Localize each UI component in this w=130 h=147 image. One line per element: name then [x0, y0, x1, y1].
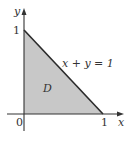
line-equation-label: x + y = 1 [62, 57, 114, 70]
x-axis-label: x [118, 116, 125, 129]
region-diagram: y 1 0 1 x x + y = 1 D [0, 0, 130, 147]
region-label: D [42, 82, 52, 95]
origin-label: 0 [16, 116, 23, 129]
x-tick-label: 1 [101, 116, 108, 129]
y-axis-label: y [13, 5, 21, 18]
y-axis-arrow-icon [22, 8, 27, 15]
y-tick-label: 1 [13, 24, 20, 37]
